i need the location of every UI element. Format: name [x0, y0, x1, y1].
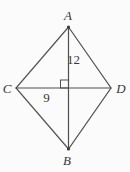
vertex-a-dot [67, 25, 70, 28]
measure-label-9: 9 [43, 90, 50, 105]
vertex-label-c: C [3, 81, 12, 96]
vertex-b-dot [67, 147, 70, 150]
vertex-label-d: D [115, 81, 126, 96]
vertex-label-a: A [63, 8, 72, 23]
kite-diagram-svg: A B C D 12 9 [0, 0, 130, 172]
vertex-label-b: B [63, 153, 71, 168]
right-angle-icon [61, 80, 69, 88]
geometry-figure: A B C D 12 9 [0, 0, 130, 172]
measure-label-12: 12 [67, 52, 80, 67]
